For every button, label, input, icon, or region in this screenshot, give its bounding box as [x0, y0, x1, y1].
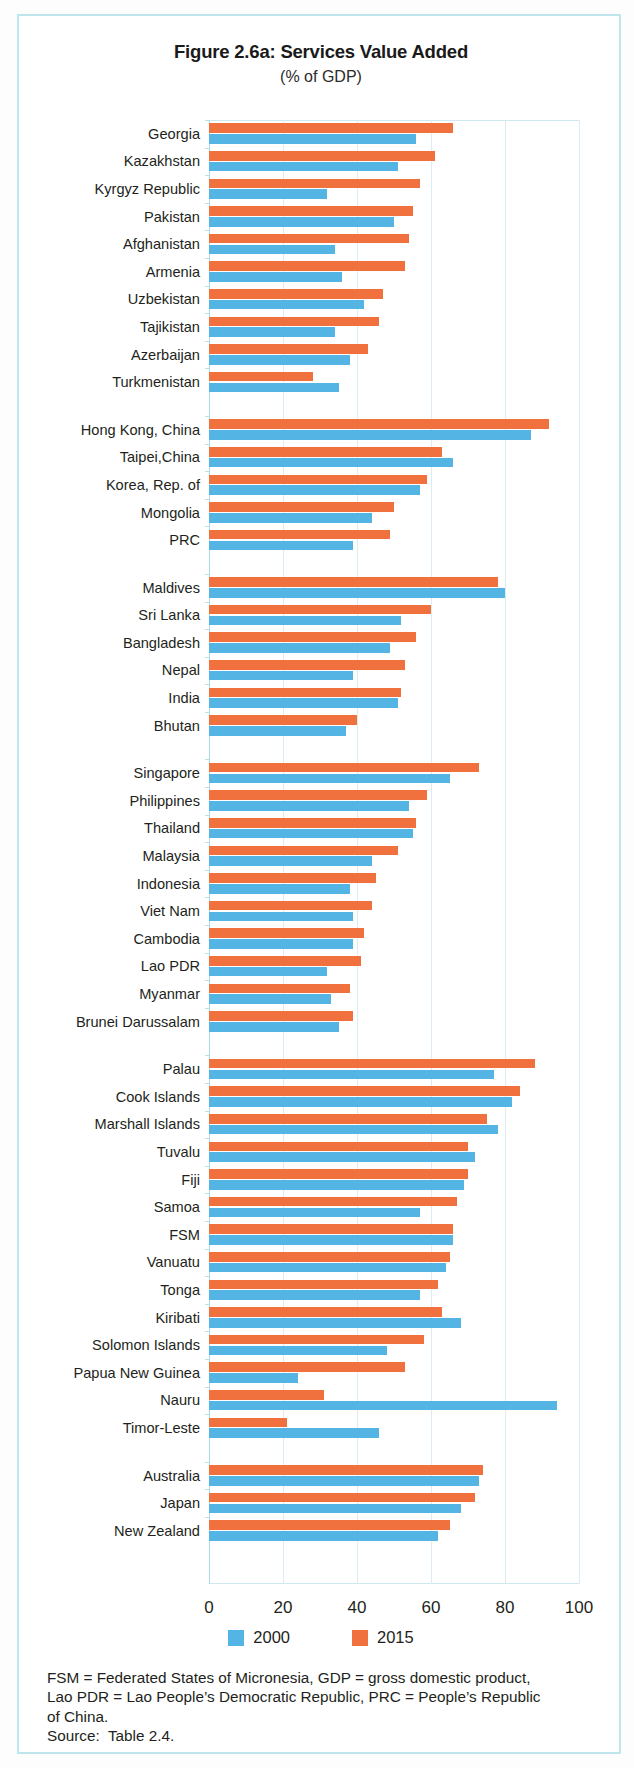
y-tick-mark — [205, 1111, 209, 1112]
chart-row: Malaysia — [209, 842, 596, 870]
bar-2015 — [209, 475, 427, 485]
bar-2000 — [209, 726, 346, 736]
bar-2000 — [209, 272, 342, 282]
bar-2015 — [209, 447, 442, 457]
y-tick-mark — [205, 286, 209, 287]
bar-2015 — [209, 790, 427, 800]
bar-2015 — [209, 530, 390, 540]
bar-2000 — [209, 1318, 461, 1328]
bar-2015 — [209, 317, 379, 327]
chart-row: Cambodia — [209, 925, 596, 953]
bar-2015 — [209, 1520, 450, 1530]
bar-2000 — [209, 217, 394, 227]
bar-2000 — [209, 1235, 453, 1245]
bar-2015 — [209, 1197, 457, 1207]
bar-2015 — [209, 179, 420, 189]
y-tick-mark — [205, 1414, 209, 1415]
category-label: Afghanistan — [123, 237, 200, 252]
bar-2000 — [209, 1428, 379, 1438]
category-label: New Zealand — [114, 1523, 200, 1538]
x-axis-tick-label: 20 — [274, 1598, 293, 1618]
category-label: Palau — [163, 1062, 200, 1077]
legend-item[interactable]: 2000 — [228, 1628, 290, 1647]
bar-2000 — [209, 967, 327, 977]
chart-row: Marshall Islands — [209, 1111, 596, 1139]
bar-2000 — [209, 884, 350, 894]
bar-2000 — [209, 1476, 479, 1486]
bar-2015 — [209, 1086, 520, 1096]
category-label: PRC — [169, 533, 200, 548]
category-label: Bhutan — [154, 718, 200, 733]
category-label: Georgia — [148, 127, 200, 142]
bar-2000 — [209, 1208, 420, 1218]
category-label: Tajikistan — [140, 320, 200, 335]
y-tick-mark — [205, 842, 209, 843]
y-tick-mark — [205, 980, 209, 981]
category-label: India — [168, 691, 200, 706]
bar-chart: GeorgiaKazakhstanKyrgyz RepublicPakistan… — [19, 112, 623, 1592]
y-tick-mark — [205, 1462, 209, 1463]
bar-2015 — [209, 1493, 475, 1503]
y-tick-mark — [205, 602, 209, 603]
y-tick-mark — [205, 1387, 209, 1388]
category-label: FSM — [169, 1227, 200, 1242]
category-label: Thailand — [144, 821, 200, 836]
chart-row: Tonga — [209, 1276, 596, 1304]
bar-2000 — [209, 485, 420, 495]
bar-2000 — [209, 1401, 557, 1411]
category-label: Pakistan — [144, 209, 200, 224]
chart-row: Papua New Guinea — [209, 1359, 596, 1387]
bar-2000 — [209, 162, 398, 172]
category-label: Mongolia — [141, 505, 200, 520]
y-tick-mark — [205, 341, 209, 342]
category-label: Indonesia — [137, 876, 200, 891]
bar-2000 — [209, 1373, 298, 1383]
bar-2000 — [209, 1097, 512, 1107]
category-label: Marshall Islands — [95, 1117, 200, 1132]
legend-swatch-icon — [228, 1630, 244, 1646]
y-tick-mark — [205, 815, 209, 816]
chart-row: Vanuatu — [209, 1249, 596, 1277]
bar-2015 — [209, 632, 416, 642]
bar-2015 — [209, 715, 357, 725]
y-tick-mark — [205, 1008, 209, 1009]
category-label: Sri Lanka — [138, 608, 200, 623]
y-tick-mark — [205, 870, 209, 871]
y-tick-mark — [205, 953, 209, 954]
chart-row: Kiribati — [209, 1304, 596, 1332]
chart-row: Taipei,China — [209, 444, 596, 472]
chart-row: Viet Nam — [209, 897, 596, 925]
bar-2000 — [209, 1290, 420, 1300]
category-label: Bangladesh — [123, 636, 200, 651]
chart-row: Kyrgyz Republic — [209, 175, 596, 203]
category-label: Singapore — [133, 766, 200, 781]
chart-row: Singapore — [209, 759, 596, 787]
y-tick-mark — [205, 1276, 209, 1277]
category-label: Malaysia — [142, 849, 200, 864]
chart-row: Nauru — [209, 1387, 596, 1415]
figure-frame: Figure 2.6a: Services Value Added (% of … — [17, 14, 621, 1754]
y-tick-mark — [205, 471, 209, 472]
bar-2000 — [209, 541, 353, 551]
y-tick-mark — [205, 444, 209, 445]
y-tick-mark — [205, 1331, 209, 1332]
y-tick-mark — [205, 230, 209, 231]
bar-2015 — [209, 1252, 450, 1262]
bar-2015 — [209, 289, 383, 299]
category-label: Uzbekistan — [128, 292, 200, 307]
y-tick-mark — [205, 787, 209, 788]
bar-2000 — [209, 458, 453, 468]
chart-row: Palau — [209, 1055, 596, 1083]
footnote: FSM = Federated States of Micronesia, GD… — [47, 1668, 607, 1746]
bar-2000 — [209, 698, 398, 708]
chart-row: Samoa — [209, 1193, 596, 1221]
country-group: PalauCook IslandsMarshall IslandsTuvaluF… — [209, 1055, 596, 1441]
legend-item[interactable]: 2015 — [352, 1628, 414, 1647]
y-tick-mark — [205, 1055, 209, 1056]
y-tick-mark — [205, 526, 209, 527]
bar-2000 — [209, 829, 413, 839]
bar-2015 — [209, 1465, 483, 1475]
bar-2000 — [209, 1346, 387, 1356]
bar-2000 — [209, 588, 505, 598]
category-label: Cook Islands — [116, 1090, 200, 1105]
